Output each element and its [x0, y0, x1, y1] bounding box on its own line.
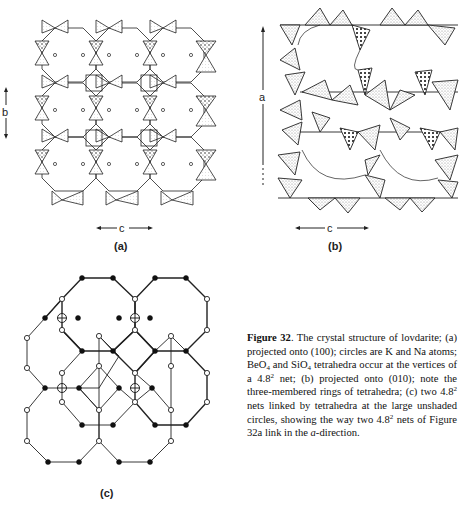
- panel-c-net-diagram: [0, 260, 240, 507]
- caption-text: -direction.: [316, 427, 360, 438]
- b-axis-label: b: [2, 106, 8, 118]
- c-axis-arrow-a: c: [96, 222, 153, 234]
- panel-b-structure-drawing: a c: [240, 0, 459, 260]
- c-axis-label-b: c: [327, 222, 333, 234]
- panel-a: b c (a): [0, 0, 235, 260]
- panel-c-label: (c): [100, 487, 113, 499]
- a-axis-label: a: [259, 91, 266, 103]
- c-axis-label-a: c: [119, 222, 125, 234]
- caption-superscript: 2: [454, 385, 458, 393]
- caption-text: and SiO: [270, 359, 308, 370]
- figure-number: Figure 32: [247, 332, 291, 343]
- figure-caption: Figure 32. The crystal structure of lovd…: [247, 331, 457, 440]
- caption-text: net; (b) projected onto (010); note the …: [247, 373, 457, 398]
- c-axis-arrow-b: c: [295, 222, 369, 234]
- panel-a-structure-drawing: b c: [0, 0, 235, 260]
- panel-c: (c): [0, 260, 240, 507]
- a-axis-arrow: a: [259, 26, 266, 188]
- linking-nodes: [58, 314, 140, 393]
- b-axis-arrow: b: [2, 87, 8, 139]
- panel-b-label: (b): [328, 240, 342, 252]
- panel-a-label: (a): [114, 240, 127, 252]
- panel-b: a c (b): [240, 0, 459, 260]
